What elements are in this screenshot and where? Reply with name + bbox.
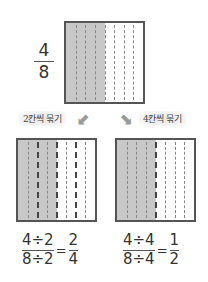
group-line bbox=[75, 142, 77, 218]
top-fraction-denominator: 8 bbox=[34, 64, 54, 81]
arrow-down-left-icon: ⬋ bbox=[77, 111, 90, 127]
rhs-denominator: 4 bbox=[69, 252, 79, 268]
lhs-denominator: 8÷2 bbox=[22, 252, 54, 268]
top-fraction: 4 8 bbox=[34, 42, 54, 81]
grid-line bbox=[105, 25, 106, 100]
group-by-4-grid bbox=[115, 138, 196, 222]
lhs-numerator: 4÷2 bbox=[22, 233, 54, 249]
group-by-4-label: 4칸씩 묶기 bbox=[139, 111, 186, 126]
equation-rhs-fraction: 1 2 bbox=[170, 233, 180, 268]
top-fraction-numerator: 4 bbox=[34, 42, 54, 59]
grid-line bbox=[47, 142, 48, 218]
rhs-numerator: 1 bbox=[170, 233, 180, 249]
equation-lhs-fraction: 4÷4 8÷4 bbox=[123, 233, 155, 268]
rhs-numerator: 2 bbox=[69, 233, 79, 249]
grid-line bbox=[28, 142, 29, 218]
rhs-denominator: 2 bbox=[170, 252, 180, 268]
grid-line bbox=[146, 142, 147, 218]
grid-line bbox=[95, 25, 96, 100]
group-line bbox=[155, 142, 157, 218]
group-by-2-equation: 4÷2 8÷2 = 2 4 bbox=[22, 233, 78, 268]
lhs-denominator: 8÷4 bbox=[123, 252, 155, 268]
grid-line bbox=[136, 142, 137, 218]
equals-sign: = bbox=[157, 243, 168, 258]
top-grid bbox=[64, 21, 145, 104]
grid-line bbox=[184, 142, 185, 218]
grid-line bbox=[85, 25, 86, 100]
grid-line bbox=[85, 142, 86, 218]
grid-line bbox=[127, 142, 128, 218]
equation-lhs-fraction: 4÷2 8÷2 bbox=[22, 233, 54, 268]
grid-line bbox=[76, 25, 77, 100]
grid-line bbox=[165, 142, 166, 218]
arrow-down-right-icon: ⬊ bbox=[119, 111, 132, 127]
equals-sign: = bbox=[56, 243, 67, 258]
group-by-2-label: 2칸씩 묶기 bbox=[19, 111, 66, 126]
group-by-4-equation: 4÷4 8÷4 = 1 2 bbox=[123, 233, 179, 268]
equation-rhs-fraction: 2 4 bbox=[69, 233, 79, 268]
grid-line bbox=[124, 25, 125, 100]
grid-line bbox=[133, 25, 134, 100]
grid-line bbox=[175, 142, 176, 218]
group-line bbox=[56, 142, 58, 218]
grid-line bbox=[114, 25, 115, 100]
grid-line bbox=[66, 142, 67, 218]
group-by-2-grid bbox=[16, 138, 97, 222]
group-line bbox=[37, 142, 39, 218]
lhs-numerator: 4÷4 bbox=[123, 233, 155, 249]
